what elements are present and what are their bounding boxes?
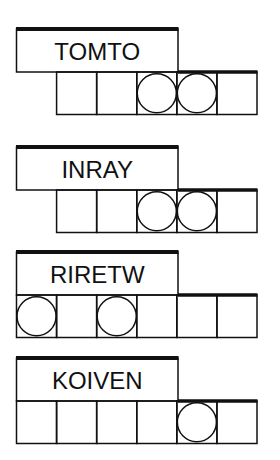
- answer-cell[interactable]: [177, 190, 217, 233]
- answer-cell[interactable]: [97, 190, 137, 233]
- scrambled-word: INRAY: [61, 156, 133, 183]
- answer-cell[interactable]: [217, 190, 257, 233]
- answer-cell[interactable]: [57, 401, 97, 444]
- scrambled-word: KOIVEN: [52, 367, 143, 394]
- answer-cell[interactable]: [177, 72, 217, 115]
- answer-cell[interactable]: [177, 295, 217, 338]
- answer-cell[interactable]: [137, 401, 177, 444]
- answer-cell[interactable]: [137, 295, 177, 338]
- jumble-board: TOMTOINRAYRIRETWKOIVEN: [0, 0, 280, 460]
- jumble-word-2: INRAY: [16, 147, 258, 233]
- answer-cell[interactable]: [97, 72, 137, 115]
- answer-cell[interactable]: [217, 295, 257, 338]
- answer-cell[interactable]: [57, 295, 97, 338]
- answer-cell[interactable]: [97, 295, 137, 338]
- answer-cell[interactable]: [17, 295, 57, 338]
- answer-cell[interactable]: [97, 401, 137, 444]
- answer-cell[interactable]: [177, 401, 217, 444]
- jumble-word-3: RIRETW: [16, 252, 258, 338]
- scrambled-word: RIRETW: [50, 261, 145, 288]
- jumble-word-4: KOIVEN: [16, 358, 258, 444]
- answer-cell[interactable]: [137, 190, 177, 233]
- answer-cell[interactable]: [17, 401, 57, 444]
- answer-cell[interactable]: [57, 72, 97, 115]
- answer-cell[interactable]: [217, 401, 257, 444]
- answer-cell[interactable]: [217, 72, 257, 115]
- jumble-word-1: TOMTO: [16, 29, 258, 115]
- scrambled-word: TOMTO: [54, 38, 140, 65]
- answer-cell[interactable]: [137, 72, 177, 115]
- answer-cell[interactable]: [57, 190, 97, 233]
